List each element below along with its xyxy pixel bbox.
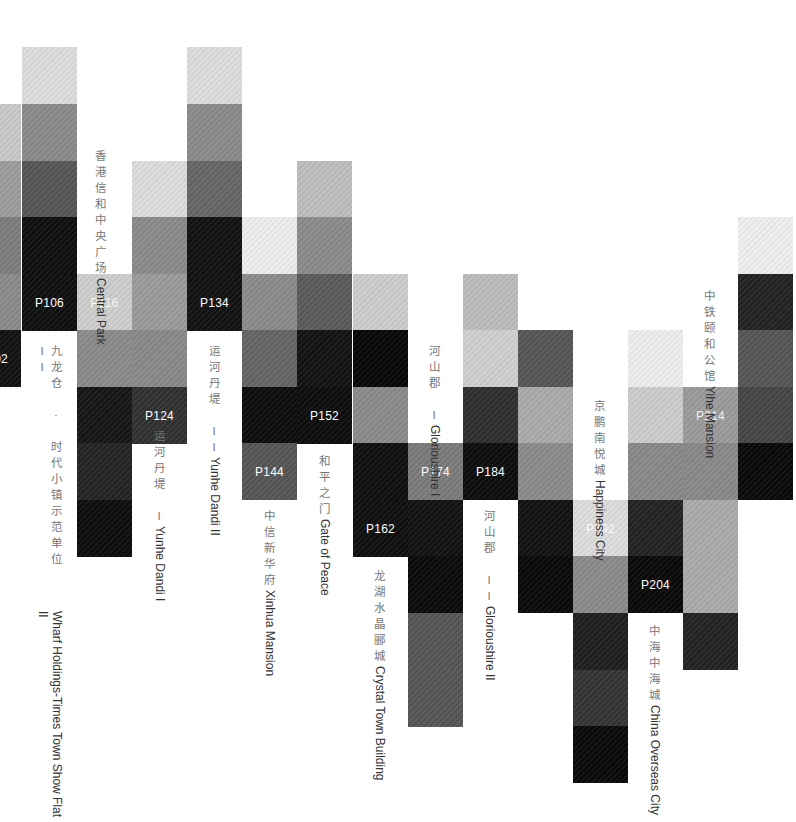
color-tile <box>683 500 738 557</box>
project-label: 运河丹堤 IYunhe Dandi I <box>145 430 167 601</box>
page-tile-p162[interactable]: P162 <box>353 500 408 557</box>
color-tile <box>0 274 21 331</box>
project-name-chinese: 中铁颐和公馆 <box>701 290 717 386</box>
color-tile <box>518 443 573 500</box>
color-tile <box>738 443 793 500</box>
project-name-chinese: 运河丹堤 I <box>151 430 167 526</box>
color-tile <box>187 161 242 218</box>
project-name-chinese: 九龙仓 · 时代小镇示范单位 II <box>36 345 64 611</box>
color-tile <box>463 330 518 387</box>
project-name-chinese: 中信新华府 <box>261 510 277 590</box>
page-tile-p102[interactable]: P102 <box>0 330 21 387</box>
color-tile <box>242 387 297 444</box>
color-tile <box>628 387 683 444</box>
color-tile <box>22 104 77 161</box>
color-tile <box>408 556 463 613</box>
color-tile <box>297 217 352 274</box>
project-label: 京鹏南悦城Happiness City <box>585 400 607 561</box>
page-tile-p204[interactable]: P204 <box>628 556 683 613</box>
color-tile <box>132 217 187 274</box>
color-tile <box>132 330 187 387</box>
color-tile <box>408 670 463 727</box>
color-tile <box>738 217 793 274</box>
color-tile <box>573 726 628 783</box>
project-index-grid: P102P106P116P124P134P144P152P162P174P184… <box>0 0 796 822</box>
project-name-english: Glorioushire I <box>420 425 442 496</box>
project-label: 和平之门Gate of Peace <box>310 455 332 596</box>
color-tile <box>0 104 21 161</box>
project-label: 中铁颐和公馆Yihe Mansion <box>695 290 717 458</box>
color-tile <box>628 443 683 500</box>
project-label: 河山郡 IIGlorioushire II <box>475 510 497 681</box>
color-tile <box>408 613 463 670</box>
project-name-chinese: 运河丹堤 II <box>206 345 222 457</box>
color-tile <box>22 47 77 104</box>
project-name-chinese: 龙湖水晶郦城 <box>371 570 387 666</box>
color-tile <box>353 443 408 500</box>
color-tile <box>187 217 242 274</box>
color-tile <box>408 500 463 557</box>
color-tile <box>683 613 738 670</box>
project-label: 香港信和中央广场Central Park <box>86 150 108 345</box>
project-name-english: Yunhe Dandi II <box>200 457 222 536</box>
project-name-chinese: 和平之门 <box>316 455 332 519</box>
page-tile-p106[interactable]: P106 <box>22 274 77 331</box>
page-tile-p134[interactable]: P134 <box>187 274 242 331</box>
page-tile-p144[interactable]: P144 <box>242 443 297 500</box>
color-tile <box>573 670 628 727</box>
color-tile <box>518 500 573 557</box>
project-name-chinese: 河山郡 II <box>481 510 497 606</box>
color-tile <box>22 161 77 218</box>
color-tile <box>683 556 738 613</box>
color-tile <box>573 556 628 613</box>
page-tile-p152[interactable]: P152 <box>297 387 352 444</box>
color-tile <box>738 387 793 444</box>
color-tile <box>242 330 297 387</box>
color-tile <box>518 330 573 387</box>
project-name-english: Crystal Town Building <box>365 666 387 781</box>
color-tile <box>353 387 408 444</box>
color-tile <box>77 500 132 557</box>
project-name-english: Happiness City <box>585 480 607 561</box>
color-tile <box>77 443 132 500</box>
color-tile <box>738 274 793 331</box>
project-name-english: Central Park <box>86 278 108 345</box>
project-name-english: China Overseas City <box>640 705 662 815</box>
color-tile <box>297 161 352 218</box>
project-label: 中海中海城China Overseas City <box>640 625 662 815</box>
project-name-chinese: 香港信和中央广场 <box>92 150 108 278</box>
project-name-english: Gate of Peace <box>310 519 332 596</box>
color-tile <box>628 500 683 557</box>
color-tile <box>518 387 573 444</box>
project-label: 中信新华府Xinhua Mansion <box>255 510 277 676</box>
color-tile <box>628 330 683 387</box>
project-name-chinese: 中海中海城 <box>646 625 662 705</box>
color-tile <box>353 330 408 387</box>
color-tile <box>463 387 518 444</box>
project-name-chinese: 河山郡 I <box>426 345 442 425</box>
project-label: 龙湖水晶郦城Crystal Town Building <box>365 570 387 781</box>
color-tile <box>738 330 793 387</box>
color-tile <box>353 274 408 331</box>
color-tile <box>0 161 21 218</box>
project-name-chinese: 京鹏南悦城 <box>591 400 607 480</box>
project-name-english: Wharf Holdings-Times Town Show Flat II <box>30 611 64 822</box>
page-tile-p184[interactable]: P184 <box>463 443 518 500</box>
project-label: 运河丹堤 IIYunhe Dandi II <box>200 345 222 536</box>
color-tile <box>242 274 297 331</box>
color-tile <box>187 47 242 104</box>
project-name-english: Xinhua Mansion <box>255 590 277 676</box>
project-label: 九龙仓 · 时代小镇示范单位 IIWharf Holdings-Times To… <box>30 345 64 822</box>
color-tile <box>573 613 628 670</box>
color-tile <box>0 217 21 274</box>
color-tile <box>518 556 573 613</box>
project-name-english: Glorioushire II <box>475 606 497 681</box>
project-name-english: Yunhe Dandi I <box>145 526 167 601</box>
color-tile <box>297 330 352 387</box>
color-tile <box>22 217 77 274</box>
color-tile <box>132 161 187 218</box>
color-tile <box>242 217 297 274</box>
color-tile <box>297 274 352 331</box>
color-tile <box>187 104 242 161</box>
color-tile <box>132 274 187 331</box>
